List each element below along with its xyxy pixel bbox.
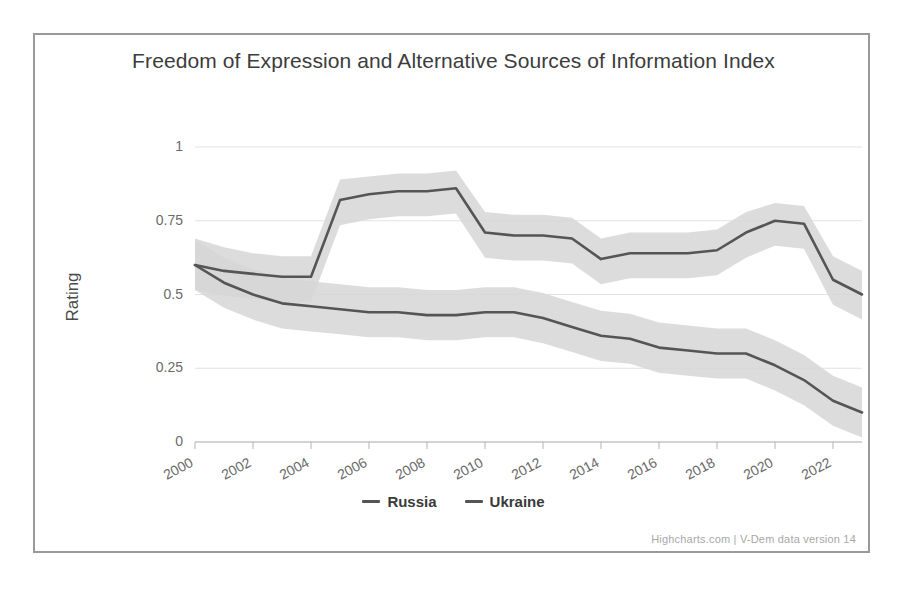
chart-legend: RussiaUkraine	[35, 493, 872, 510]
chart-credits: Highcharts.com | V-Dem data version 14	[651, 533, 856, 545]
legend-line-icon	[362, 500, 380, 503]
screenshot-root: Freedom of Expression and Alternative So…	[0, 0, 903, 591]
y-tick-label: 1	[133, 138, 183, 154]
y-tick-label: 0.25	[133, 359, 183, 375]
y-tick-label: 0	[133, 433, 183, 449]
legend-item-ukraine[interactable]: Ukraine	[465, 493, 545, 510]
legend-item-russia[interactable]: Russia	[362, 493, 436, 510]
legend-line-icon	[465, 500, 483, 503]
y-tick-label: 0.75	[133, 212, 183, 228]
y-axis-title: Rating	[63, 237, 83, 357]
legend-label: Ukraine	[490, 493, 545, 510]
legend-label: Russia	[387, 493, 436, 510]
plot-area: Rating 00.250.50.751 2000200220042006200…	[35, 35, 872, 555]
axis-ticks	[195, 442, 833, 449]
chart-card: Freedom of Expression and Alternative So…	[33, 33, 870, 553]
y-tick-label: 0.5	[133, 286, 183, 302]
